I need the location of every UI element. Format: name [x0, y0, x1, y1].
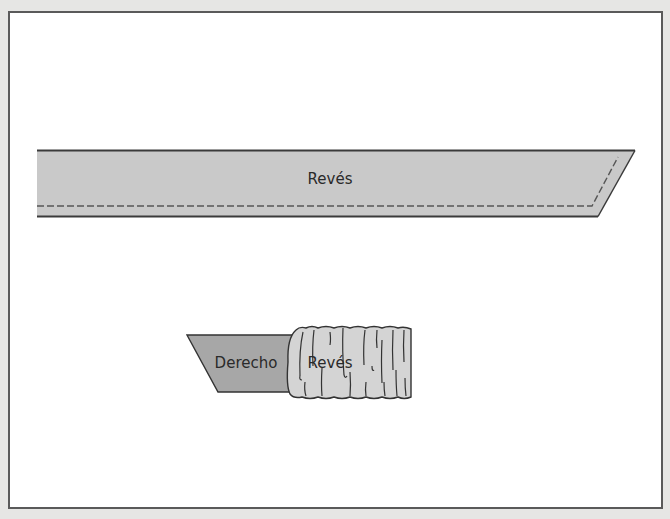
sewing-diagram: Revés Derecho	[0, 0, 670, 519]
fold-line	[393, 330, 394, 370]
fabric-strip: Revés	[37, 150, 635, 217]
fold-line	[377, 330, 378, 348]
ruffle-flat-label: Derecho	[215, 354, 278, 372]
fold-line	[404, 330, 405, 362]
fold-line	[366, 382, 367, 396]
fold-line	[322, 368, 323, 396]
ruffle: Derecho	[187, 327, 411, 399]
fold-line	[350, 372, 351, 396]
ruffle-gathered-label: Revés	[308, 354, 353, 372]
fold-line	[382, 340, 383, 383]
diagram-canvas: Revés Derecho	[0, 0, 670, 519]
fabric-strip-label: Revés	[308, 170, 353, 188]
fold-line	[330, 332, 331, 345]
